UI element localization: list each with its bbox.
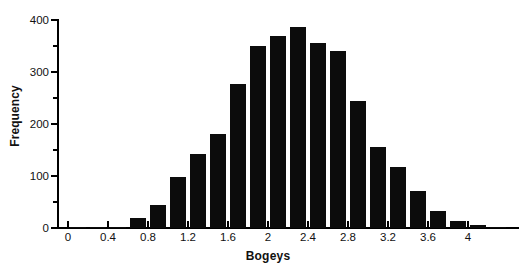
y-axis-tick-label: 200 — [1, 118, 49, 130]
x-axis-tick — [267, 221, 269, 228]
histogram-bar — [250, 46, 267, 228]
histogram-bar — [310, 43, 327, 228]
histogram-bar — [190, 154, 207, 228]
x-axis-title: Bogeys — [58, 249, 478, 263]
y-axis-tick-label: 300 — [1, 66, 49, 78]
x-axis-tick — [147, 221, 149, 228]
y-axis-tick-label: 0 — [1, 222, 49, 234]
x-axis-tick — [387, 221, 389, 228]
x-axis-tick-label: 3.6 — [408, 231, 448, 243]
x-axis-tick — [467, 221, 469, 228]
x-axis-tick-label: 1.2 — [168, 231, 208, 243]
y-axis-tick-label: 100 — [1, 170, 49, 182]
y-axis-tick — [51, 19, 58, 21]
x-axis-tick — [67, 221, 69, 228]
y-axis-tick-label: 400 — [1, 14, 49, 26]
x-axis-tick — [427, 221, 429, 228]
histogram-bar — [90, 227, 107, 228]
x-axis-tick-label: 1.6 — [208, 231, 248, 243]
histogram-bar — [170, 177, 187, 228]
x-axis-tick-label: 0.4 — [88, 231, 128, 243]
histogram-bar — [390, 167, 407, 228]
x-axis-tick-label: 2.4 — [288, 231, 328, 243]
histogram-bar — [130, 218, 147, 228]
y-axis-tick — [51, 227, 58, 229]
y-axis-minor-tick — [53, 97, 58, 99]
x-axis-tick — [187, 221, 189, 228]
histogram-bar — [470, 225, 487, 228]
histogram-bar — [150, 205, 167, 228]
histogram-bar — [370, 147, 387, 228]
x-axis-tick — [227, 221, 229, 228]
histogram-bar — [230, 84, 247, 228]
histogram-bar — [450, 221, 467, 228]
x-axis-tick — [307, 221, 309, 228]
x-axis-tick-label: 0 — [48, 231, 88, 243]
y-axis-tick — [51, 175, 58, 177]
histogram-bar — [350, 101, 367, 228]
y-axis-tick — [51, 71, 58, 73]
y-axis-tick — [51, 123, 58, 125]
x-axis-tick — [347, 221, 349, 228]
histogram-bar — [410, 191, 427, 228]
histogram-bar — [290, 27, 307, 228]
histogram-bar — [430, 211, 447, 228]
histogram-bar — [110, 227, 127, 228]
y-axis-minor-tick — [53, 149, 58, 151]
x-axis-tick-label: 2.8 — [328, 231, 368, 243]
x-axis-tick-label: 0.8 — [128, 231, 168, 243]
histogram-figure: Frequency 0100200300400 Bogeys 00.40.81.… — [0, 0, 527, 275]
x-axis-tick-label: 2 — [248, 231, 288, 243]
histogram-bar — [270, 36, 287, 228]
plot-area — [58, 20, 518, 228]
histogram-bar — [330, 51, 347, 228]
histogram-bar — [210, 134, 227, 228]
histogram-bar — [490, 227, 507, 228]
y-axis-minor-tick — [53, 201, 58, 203]
y-axis-tick-labels: 0100200300400 — [0, 0, 49, 275]
x-axis-tick-label: 3.2 — [368, 231, 408, 243]
histogram-bar — [70, 227, 87, 228]
x-axis-tick — [107, 221, 109, 228]
x-axis-tick-label: 4 — [448, 231, 488, 243]
y-axis-minor-tick — [53, 45, 58, 47]
